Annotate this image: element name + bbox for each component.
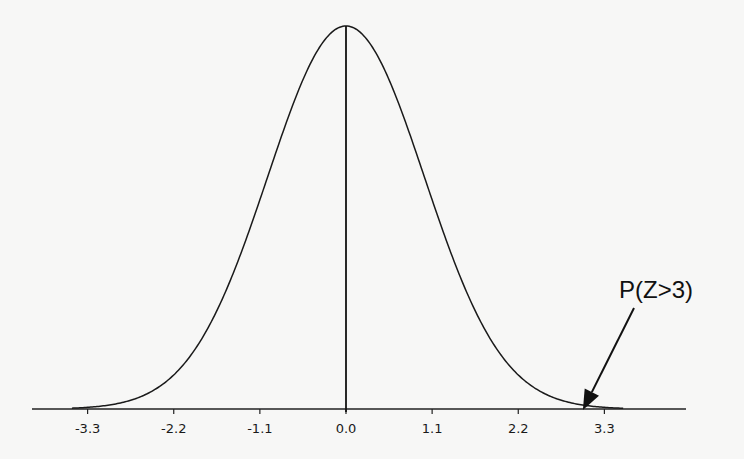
tail-probability-label: P(Z>3) — [619, 276, 693, 303]
x-tick-label: 3.3 — [594, 421, 615, 436]
normal-distribution-chart: -3.3-2.2-1.10.01.12.23.3 P(Z>3) — [0, 0, 744, 459]
tail-annotation: P(Z>3) — [583, 276, 693, 410]
x-tick-label: 0.0 — [336, 421, 357, 436]
x-tick-label: -3.3 — [75, 421, 100, 436]
x-tick-label: -1.1 — [247, 421, 272, 436]
annotation-arrow-shaft — [592, 308, 634, 392]
x-axis-ticks: -3.3-2.2-1.10.01.12.23.3 — [75, 409, 615, 436]
x-tick-label: 2.2 — [508, 421, 529, 436]
x-tick-label: -2.2 — [161, 421, 186, 436]
density-curve — [72, 26, 623, 408]
axis-group: -3.3-2.2-1.10.01.12.23.3 — [32, 409, 686, 436]
x-tick-label: 1.1 — [422, 421, 443, 436]
